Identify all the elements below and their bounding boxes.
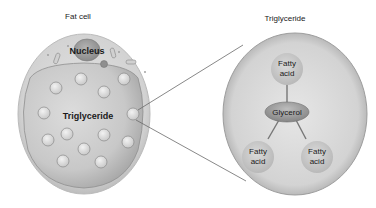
fatty-acid-label: acid [280, 69, 295, 78]
organelle-dot [144, 71, 146, 73]
lipid-droplet [127, 108, 139, 120]
fatty-acid-label: Fatty [278, 59, 296, 68]
lipid-droplet [57, 155, 69, 167]
fat-cell-title: Fat cell [65, 12, 91, 21]
fatty-acid-label: Fatty [308, 147, 326, 156]
lipid-droplet [61, 128, 73, 140]
fat-cell: Nucleus Triglyceride [18, 34, 150, 194]
lipid-droplet [38, 107, 50, 119]
fat-cell-diagram: Fat cell Nucleus [0, 0, 376, 208]
triglyceride-title: Triglyceride [264, 14, 306, 23]
lipid-droplet [122, 136, 134, 148]
lipid-droplet [78, 143, 90, 155]
fatty-acid-label: acid [310, 157, 325, 166]
organelle [101, 61, 108, 68]
lipid-droplet [95, 156, 107, 168]
fatty-acid-label: acid [251, 157, 266, 166]
lipid-droplet [98, 129, 110, 141]
nucleus-label: Nucleus [69, 46, 104, 56]
lipid-droplet [42, 134, 54, 146]
fatty-acid-label: Fatty [249, 147, 267, 156]
organelle-dot [67, 45, 69, 47]
lipid-droplet [98, 86, 110, 98]
lipid-droplet [75, 73, 87, 85]
glycerol-label: Glycerol [272, 108, 302, 117]
organelle-dot [47, 54, 49, 56]
triglyceride-molecule: Fatty acid Glycerol Fatty acid Fatty aci… [223, 33, 367, 195]
lipid-droplet [50, 82, 62, 94]
triglyceride-label: Triglyceride [63, 111, 114, 121]
lipid-droplet [118, 73, 130, 85]
organelle [126, 60, 136, 64]
organelle-dot [118, 51, 120, 53]
